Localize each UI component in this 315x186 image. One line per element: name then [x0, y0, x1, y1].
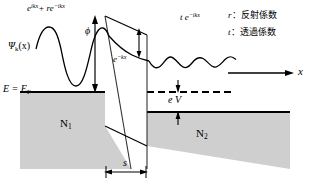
transmitted-wave [149, 57, 236, 68]
legend-text-transmission: 透過係数 [240, 27, 276, 37]
bias-arrow-upper-head [176, 85, 181, 93]
x-axis-label: x [298, 66, 303, 77]
right-electrode-label: N2 [196, 128, 208, 140]
wavefunction-label: Ψk(x) [8, 41, 30, 52]
incident-reflected-wave-label: eikx+ re−ikx [27, 3, 65, 13]
barrier-height-label: ϕ [85, 26, 90, 36]
decaying-wave-label: e−kx [113, 54, 127, 64]
transmitted-wave-t: t e [180, 12, 189, 22]
barrier-top-edge [105, 16, 147, 35]
psi-argument: (x) [18, 40, 30, 51]
decay-wave-exponent: −kx [117, 54, 127, 60]
right-electrode-fill [147, 112, 290, 169]
fermi-level-text: E = E [3, 83, 27, 94]
x-axis-arrow-head [285, 70, 294, 76]
incident-wave-plus-r: + r [38, 3, 50, 13]
tunneling-energy-diagram: eikx+ re−ikx Ψk(x) ϕ e−kx t e−ikx E = EF… [0, 0, 315, 186]
fermi-level-label: E = EF [3, 84, 31, 95]
reflected-wave-exponent: −ikx [54, 3, 65, 9]
legend-item-reflection: r：反射係数 [228, 11, 277, 20]
transmitted-wave-label: t e−ikx [180, 12, 200, 22]
barrier-width-arrow-head-left [104, 169, 112, 174]
right-electrode-n: N [196, 127, 204, 139]
legend-text-reflection: 反射係数 [241, 10, 277, 20]
bias-voltage-label: e V [168, 95, 181, 105]
left-electrode-n: N [60, 117, 68, 129]
psi-symbol: Ψ [8, 40, 15, 51]
barrier-width-label: s [123, 158, 127, 168]
phi-arrow-head-up [92, 15, 98, 24]
barrier-width-arrow-head-right [140, 169, 148, 174]
incident-reflected-wave [36, 27, 109, 86]
legend-separator-1: ： [231, 27, 240, 37]
legend-item-transmission: t：透過係数 [228, 28, 276, 37]
fermi-level-subscript: F [27, 88, 31, 95]
left-electrode-label: N1 [60, 118, 72, 130]
right-electrode-subscript: 2 [204, 132, 208, 141]
transmitted-wave-exponent: −ikx [189, 12, 200, 18]
left-electrode-subscript: 1 [68, 122, 72, 131]
legend-separator-0: ： [232, 10, 241, 20]
